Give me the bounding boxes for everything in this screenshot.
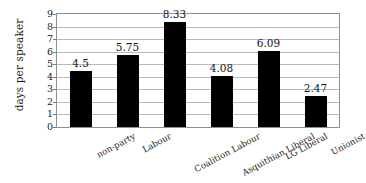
bar-value-label: 8.33 <box>151 9 199 20</box>
bar-value-label: 2.47 <box>292 83 340 94</box>
gridline <box>57 114 339 115</box>
gridline <box>57 77 339 78</box>
gridline <box>57 102 339 103</box>
y-axis-tick-label: 3 <box>39 84 53 94</box>
gridline <box>57 52 339 53</box>
y-axis-tick-label: 0 <box>39 122 53 132</box>
bar <box>164 22 186 127</box>
bar <box>70 71 92 128</box>
gridline <box>57 39 339 40</box>
y-axis-tick-label: 7 <box>39 34 53 44</box>
y-axis-tick-label: 5 <box>39 59 53 69</box>
y-axis-tick-label: 4 <box>39 72 53 82</box>
y-axis-tick-label: 9 <box>39 9 53 19</box>
bar-value-label: 4.08 <box>198 63 246 74</box>
bar <box>211 76 233 127</box>
bar-value-label: 6.09 <box>245 38 293 49</box>
bar <box>117 55 139 127</box>
bar <box>258 51 280 128</box>
bar-value-label: 4.5 <box>57 58 105 69</box>
gridline <box>57 27 339 28</box>
y-axis-tick-label: 8 <box>39 22 53 32</box>
bar-value-label: 5.75 <box>104 42 152 53</box>
bar <box>305 96 327 127</box>
y-axis-tick-label: 6 <box>39 47 53 57</box>
y-axis-tick-label: 2 <box>39 97 53 107</box>
y-axis-tick-label: 1 <box>39 109 53 119</box>
